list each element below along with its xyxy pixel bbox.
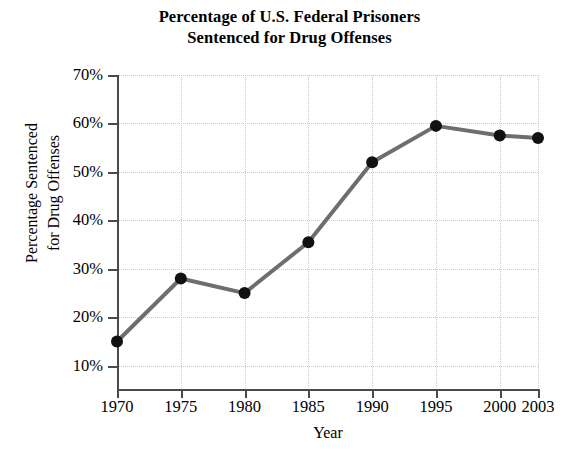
x-axis-tick-label: 1975 <box>164 397 197 417</box>
y-axis-tick-label: 20% <box>73 307 103 327</box>
y-axis-tick <box>108 366 117 368</box>
series-polyline <box>117 126 538 342</box>
data-series-line <box>117 75 538 390</box>
data-point-marker <box>175 273 187 285</box>
y-axis-tick-label: 40% <box>73 210 103 230</box>
x-axis-tick-label: 2000 <box>483 397 516 417</box>
data-point-marker <box>302 236 314 248</box>
y-axis-title-line-1: Percentage Sentenced <box>21 63 43 323</box>
data-point-marker <box>239 287 251 299</box>
y-axis-tick <box>108 75 117 77</box>
plot-area: 70%60%50%40%30%20%10% 197019751980198519… <box>117 75 538 390</box>
data-point-marker <box>366 156 378 168</box>
y-axis-tick <box>108 269 117 271</box>
chart-title: Percentage of U.S. Federal Prisoners Sen… <box>0 6 579 48</box>
y-axis-tick <box>108 317 117 319</box>
plot-frame: 70%60%50%40%30%20%10% 197019751980198519… <box>117 75 538 390</box>
y-axis-tick-label: 50% <box>73 162 103 182</box>
x-axis-tick-label: 1970 <box>101 397 134 417</box>
y-axis-tick-label: 30% <box>73 259 103 279</box>
series-markers <box>111 120 544 348</box>
x-axis-tick-label: 1985 <box>292 397 325 417</box>
data-point-marker <box>430 120 442 132</box>
y-axis-title-line-2: for Drug Offenses <box>43 63 65 323</box>
chart-figure: Percentage of U.S. Federal Prisoners Sen… <box>0 0 579 458</box>
x-axis-tick-label: 1980 <box>228 397 261 417</box>
data-point-marker <box>111 336 123 348</box>
y-axis-tick-label: 60% <box>73 113 103 133</box>
gridline-vertical <box>538 75 539 390</box>
x-axis-tick-label: 2003 <box>522 397 555 417</box>
chart-title-line-1: Percentage of U.S. Federal Prisoners <box>0 6 579 27</box>
y-axis-tick <box>108 123 117 125</box>
y-axis-tick-label: 10% <box>73 356 103 376</box>
y-axis-tick-label: 70% <box>73 65 103 85</box>
x-axis-tick-label: 1990 <box>356 397 389 417</box>
data-point-marker <box>532 132 544 144</box>
y-axis-tick <box>108 220 117 222</box>
data-point-marker <box>494 130 506 142</box>
y-axis-tick <box>108 172 117 174</box>
x-axis-title: Year <box>118 424 538 442</box>
chart-title-line-2: Sentenced for Drug Offenses <box>0 27 579 48</box>
y-axis-title: Percentage Sentenced for Drug Offenses <box>21 63 67 323</box>
x-axis-tick-label: 1995 <box>419 397 452 417</box>
